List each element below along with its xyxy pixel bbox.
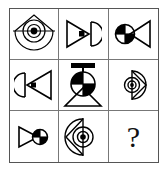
quartered-circle-bar-triangle-down-icon (61, 61, 105, 109)
triangle-right-quartered-circle-icon (16, 124, 52, 150)
matrix-cell-7[interactable] (10, 111, 59, 162)
bullseye-diamond-large-icon (11, 12, 57, 56)
matrix-cell-8[interactable] (59, 111, 108, 162)
bullseye-diamond-right-small-icon (116, 68, 150, 102)
bullseye-diamond-left-icon (62, 116, 104, 158)
matrix-cell-6[interactable] (109, 60, 158, 111)
figure-matrix-grid: ? (9, 8, 159, 163)
triangle-right-halfcircle-icon (64, 18, 102, 50)
matrix-cell-5[interactable] (59, 60, 108, 111)
quartered-circle-part (33, 129, 48, 144)
matrix-cell-4[interactable] (10, 60, 59, 111)
quartered-circle-triangle-left-icon (113, 18, 153, 50)
matrix-cell-3[interactable] (109, 9, 158, 60)
matrix-cell-1[interactable] (10, 9, 59, 60)
matrix-cell-9-answer[interactable]: ? (109, 111, 158, 162)
matrix-cell-2[interactable] (59, 9, 108, 60)
quartered-circle-part (71, 72, 95, 96)
halfcircle-triangle-left-icon (14, 68, 54, 102)
quartered-circle-part (116, 25, 135, 44)
question-mark-label: ? (127, 122, 140, 152)
